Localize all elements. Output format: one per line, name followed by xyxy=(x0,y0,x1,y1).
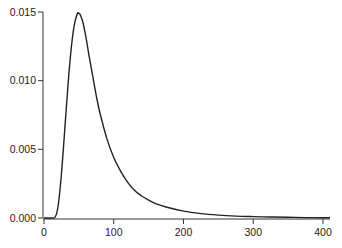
x-axis: 0100200300400 xyxy=(41,219,332,238)
y-tick-label: 0.010 xyxy=(10,74,36,86)
chart: 0.0000.0050.0100.015 0100200300400 xyxy=(0,0,342,248)
density-curve xyxy=(44,13,330,219)
x-tick-label: 400 xyxy=(314,226,332,238)
y-tick-label: 0.000 xyxy=(10,212,36,224)
y-axis: 0.0000.0050.0100.015 xyxy=(10,6,43,224)
x-tick-label: 300 xyxy=(244,226,262,238)
x-tick-label: 200 xyxy=(175,226,193,238)
y-tick-label: 0.015 xyxy=(10,6,36,18)
x-tick-label: 100 xyxy=(105,226,123,238)
y-tick-label: 0.005 xyxy=(10,143,36,155)
x-tick-label: 0 xyxy=(41,226,47,238)
